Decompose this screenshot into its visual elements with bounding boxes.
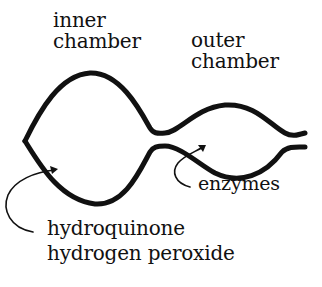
- inner-chamber-upper-wall: [25, 73, 305, 141]
- inner-contents-arrowhead-icon: [50, 166, 58, 174]
- inner-chamber-label-line-2: chamber: [53, 31, 141, 52]
- outer-chamber-label-line-2: chamber: [191, 51, 279, 72]
- inner-chamber-label: inner chamber: [53, 10, 141, 52]
- inner-contents-label: hydroquinone hydrogen peroxide: [47, 216, 235, 266]
- hydroquinone-label: hydroquinone: [47, 216, 235, 241]
- enzymes-label: enzymes: [198, 174, 280, 194]
- outer-chamber-label: outer chamber: [191, 30, 279, 72]
- outer-chamber-label-line-1: outer: [191, 30, 279, 51]
- hydrogen-peroxide-label: hydrogen peroxide: [47, 241, 235, 266]
- inner-chamber-label-line-1: inner: [53, 10, 141, 31]
